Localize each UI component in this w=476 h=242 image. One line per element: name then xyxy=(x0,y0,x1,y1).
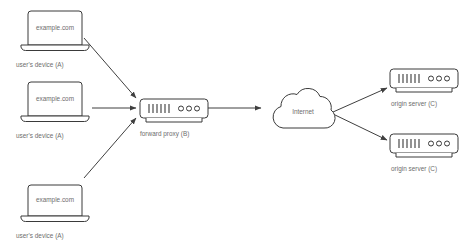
forward-proxy-caption: forward proxy (B) xyxy=(140,130,189,138)
server-icon xyxy=(140,99,208,122)
client-node-middle[interactable]: example.com user's device (A) xyxy=(16,82,89,140)
internet-cloud-node[interactable]: Internet xyxy=(273,88,335,128)
client-caption-top: user's device (A) xyxy=(16,61,64,69)
client-screen-label-bottom: example.com xyxy=(36,196,74,204)
diagram-canvas: example.com user's device (A) example.co… xyxy=(0,0,476,242)
server-icon xyxy=(390,134,458,157)
conn-internet-to-origin-top xyxy=(333,88,387,112)
internet-cloud-label: Internet xyxy=(292,108,314,115)
origin-server-node-bottom[interactable]: origin server (C) xyxy=(390,134,458,173)
server-icon xyxy=(390,69,458,92)
client-caption-bottom: user's device (A) xyxy=(16,232,64,240)
origin-server-caption-top: origin server (C) xyxy=(391,100,437,108)
origin-server-caption-bottom: origin server (C) xyxy=(391,165,437,173)
client-screen-label-top: example.com xyxy=(36,24,74,32)
connector-group xyxy=(84,38,387,178)
client-node-bottom[interactable]: example.com user's device (A) xyxy=(16,185,89,240)
conn-client-bottom-to-proxy xyxy=(84,118,136,178)
client-caption-middle: user's device (A) xyxy=(16,132,64,140)
conn-client-top-to-proxy xyxy=(84,38,136,98)
laptop-icon xyxy=(21,185,89,222)
client-node-top[interactable]: example.com user's device (A) xyxy=(16,11,89,69)
forward-proxy-diagram: example.com user's device (A) example.co… xyxy=(0,0,476,242)
origin-server-node-top[interactable]: origin server (C) xyxy=(390,69,458,108)
client-screen-label-middle: example.com xyxy=(36,95,74,103)
forward-proxy-node[interactable]: forward proxy (B) xyxy=(140,99,208,138)
conn-internet-to-origin-bottom xyxy=(333,114,387,140)
